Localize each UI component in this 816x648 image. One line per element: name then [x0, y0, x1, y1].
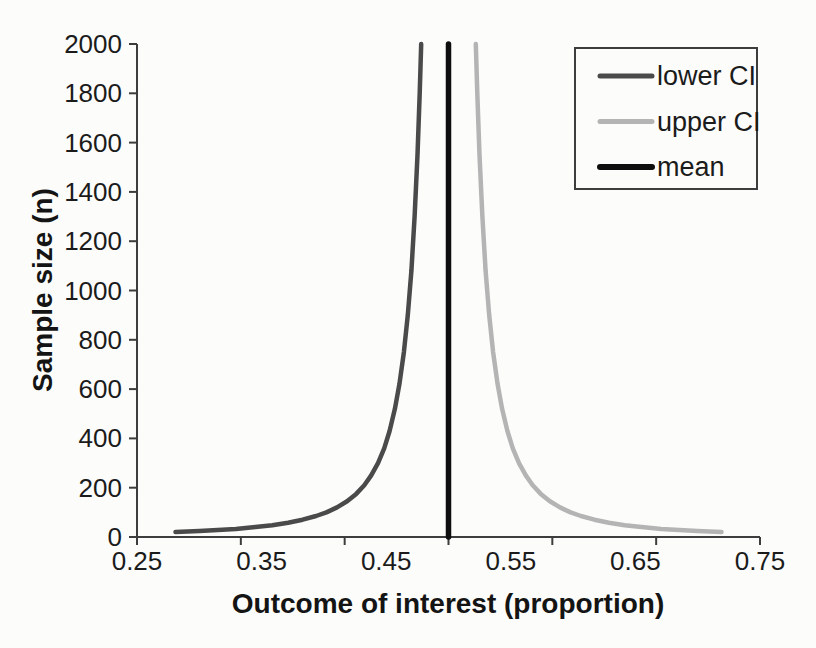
legend-label-lower-ci: lower CI: [657, 61, 756, 91]
ci-vs-sample-size-figure: 02004006008001000120014001600180020000.2…: [0, 0, 816, 648]
y-tick-label: 1600: [64, 128, 122, 158]
x-tick-label: 0.25: [112, 546, 163, 576]
y-axis-title: Sample size (n): [27, 188, 58, 392]
x-tick-label: 0.75: [735, 546, 786, 576]
chart-page: 02004006008001000120014001600180020000.2…: [0, 0, 816, 648]
y-tick-label: 200: [79, 473, 122, 503]
x-tick-label: 0.35: [236, 546, 287, 576]
chart-canvas: 02004006008001000120014001600180020000.2…: [0, 0, 816, 648]
y-tick-label: 1400: [64, 177, 122, 207]
y-tick-label: 1000: [64, 276, 122, 306]
x-tick-label: 0.65: [610, 546, 661, 576]
y-tick-label: 1800: [64, 78, 122, 108]
series-line-lower-ci: [176, 44, 422, 532]
chart-legend: lower CIupper CImean: [575, 48, 761, 189]
legend-label-mean: mean: [657, 152, 725, 182]
y-tick-label: 800: [79, 325, 122, 355]
y-tick-label: 400: [79, 423, 122, 453]
y-tick-label: 600: [79, 374, 122, 404]
y-tick-label: 1200: [64, 226, 122, 256]
x-axis-title: Outcome of interest (proportion): [232, 588, 664, 619]
x-tick-label: 0.55: [485, 546, 536, 576]
x-tick-label: 0.45: [361, 546, 412, 576]
legend-label-upper-ci: upper CI: [657, 107, 761, 137]
y-tick-label: 2000: [64, 29, 122, 59]
